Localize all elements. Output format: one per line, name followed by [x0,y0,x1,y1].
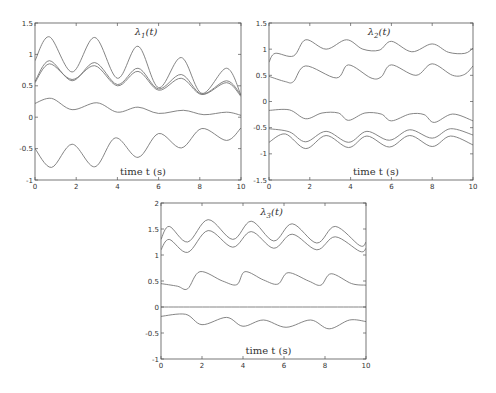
x-tick-label: 8 [323,362,327,370]
y-tick-label: 0.5 [256,72,267,80]
y-tick-label: 0 [155,304,159,312]
y-tick-label: 2 [155,200,159,208]
y-tick-label: 0 [263,98,267,106]
x-tick-label: 6 [282,362,287,370]
series-line-curve3 [161,272,366,290]
x-tick-label: 0 [267,183,271,191]
y-tick-label: 1.5 [22,20,33,28]
series-line-curve1 [269,40,473,63]
series-line-curve4 [35,98,241,115]
series-group [161,220,366,329]
y-tick-label: -1 [260,150,267,158]
x-axis-label: time t (s) [353,166,399,177]
x-tick-label: 10 [237,183,246,191]
series-group [269,40,473,149]
y-tick-label: 1.5 [256,20,267,28]
series-line-curve1 [161,220,366,247]
y-tick-label: -0.5 [19,145,33,153]
y-tick-label: -0.5 [253,124,267,132]
y-tick-label: 0.5 [22,82,33,90]
x-tick-label: 6 [389,183,394,191]
series-line-curve3 [269,109,473,122]
x-tick-label: 4 [241,362,246,370]
x-tick-label: 4 [115,183,120,191]
y-tick-label: -1 [152,356,159,364]
y-tick-label: -1.5 [253,177,267,185]
x-tick-label: 8 [430,183,434,191]
chart-title: λ2(t) [367,26,391,40]
x-tick-label: 10 [469,183,478,191]
series-line-curve2 [269,64,473,83]
series-line-curve3 [35,64,241,97]
x-tick-label: 2 [74,183,78,191]
x-axis-label: time t (s) [246,345,292,356]
chart-lambda2: 0246810-1.5-1-0.500.511.5λ2(t)time t (s) [253,20,477,192]
y-tick-label: 1 [29,51,33,59]
x-tick-label: 4 [348,183,353,191]
x-axis-label: time t (s) [120,166,166,177]
y-tick-label: 0.5 [148,278,159,286]
y-tick-label: 1.5 [148,226,159,234]
series-line-curve2 [161,231,366,253]
x-tick-label: 10 [362,362,371,370]
x-tick-label: 2 [308,183,312,191]
series-line-curve5 [35,128,241,168]
chart-title: λ1(t) [134,26,158,40]
series-group [35,37,241,168]
x-tick-label: 0 [33,183,37,191]
chart-lambda1: 0246810-1-0.500.511.5λ1(t)time t (s) [19,20,245,192]
figure-canvas: 0246810-1-0.500.511.5λ1(t)time t (s) 024… [0,0,496,393]
x-tick-label: 6 [156,183,161,191]
chart-lambda3: 0246810-1-0.500.511.52λ3(t)time t (s) [145,200,370,371]
y-tick-label: 1 [155,252,159,260]
series-line-curve5 [161,314,366,329]
series-line-curve5 [269,134,473,149]
chart-title: λ3(t) [259,206,283,220]
y-tick-label: 0 [29,114,33,122]
series-line-curve1 [35,37,241,96]
y-tick-label: -1 [26,177,33,185]
x-tick-label: 0 [159,362,163,370]
y-tick-label: 1 [263,46,267,54]
x-tick-label: 2 [200,362,204,370]
x-tick-label: 8 [198,183,202,191]
y-tick-label: -0.5 [145,330,159,338]
